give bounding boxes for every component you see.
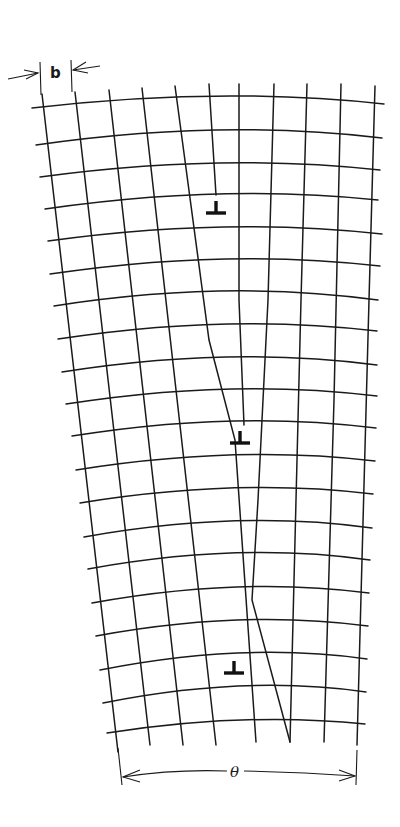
lattice-row-2 — [36, 130, 382, 145]
lattice-column-4 — [142, 88, 216, 745]
dislocation-array — [206, 201, 250, 673]
lattice-row-5 — [48, 227, 382, 241]
spacing-extension-left — [40, 62, 41, 95]
lattice-row-1 — [32, 96, 384, 108]
lattice-row-4 — [45, 194, 378, 209]
spacing-arrow-right-icon — [73, 62, 88, 73]
lattice-row-11 — [72, 421, 376, 436]
lattice-row-19 — [103, 685, 366, 703]
lattice-row-9 — [62, 357, 377, 372]
lattice-rows — [32, 96, 384, 733]
lattice-column-6 — [209, 84, 216, 195]
spacing-label: b — [50, 64, 61, 82]
angle-extension-right — [356, 750, 357, 785]
lattice-row-14 — [84, 521, 372, 537]
lattice-row-7 — [54, 291, 378, 306]
edge-dislocation-icon — [224, 661, 244, 673]
lattice-column-8 — [252, 84, 290, 742]
lattice-row-15 — [88, 553, 370, 569]
lattice-column-1 — [42, 94, 118, 752]
grain-boundary-diagram: b θ — [0, 0, 400, 827]
spacing-arrow-left-shaft — [8, 73, 38, 79]
angle-label: θ — [230, 763, 239, 781]
lattice-row-8 — [58, 324, 377, 339]
edge-dislocation-icon — [206, 201, 226, 213]
spacing-extension-right — [71, 60, 72, 92]
lattice-row-3 — [40, 163, 380, 177]
angle-extension-left — [118, 748, 122, 785]
lattice-column-2 — [75, 92, 150, 745]
angle-arc-left — [123, 771, 227, 777]
lattice-row-6 — [50, 259, 380, 274]
lattice-column-7 — [239, 84, 244, 425]
lattice-row-13 — [80, 488, 373, 503]
angle-arc-right — [244, 771, 355, 776]
lattice-column-11 — [357, 86, 375, 745]
lattice-column-9 — [290, 84, 307, 742]
lattice-columns — [42, 84, 375, 752]
angle-dimension: θ — [118, 748, 357, 785]
lattice-column-10 — [324, 84, 341, 742]
lattice-row-12 — [76, 455, 375, 470]
lattice-column-3 — [109, 90, 183, 745]
spacing-dimension: b — [8, 60, 100, 95]
lattice-row-20 — [107, 719, 365, 733]
